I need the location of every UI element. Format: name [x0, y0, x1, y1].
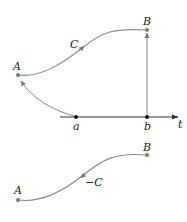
label-t: t — [178, 118, 183, 131]
diagram-canvas: A B C a b t A B −C — [0, 0, 187, 222]
point-A-bottom — [16, 198, 20, 202]
point-b — [145, 115, 149, 119]
curve-c-direction-arrow-icon — [79, 46, 84, 51]
label-A-bottom: A — [13, 184, 22, 197]
point-A-top — [16, 73, 20, 77]
point-B-top — [145, 28, 149, 32]
label-a: a — [73, 120, 80, 133]
label-minus-C: −C — [85, 176, 103, 189]
label-C: C — [70, 38, 79, 51]
mapping-arrow-a-to-A — [21, 81, 74, 116]
top-figure: A B C a b t — [12, 15, 183, 133]
curve-minus-c — [18, 154, 147, 200]
bottom-figure: A B −C — [13, 141, 151, 202]
curve-c — [18, 30, 147, 76]
point-a — [74, 115, 78, 119]
label-b: b — [144, 120, 151, 133]
label-B-top: B — [142, 15, 151, 28]
label-A-top: A — [12, 60, 21, 73]
label-B-bottom: B — [142, 141, 151, 154]
